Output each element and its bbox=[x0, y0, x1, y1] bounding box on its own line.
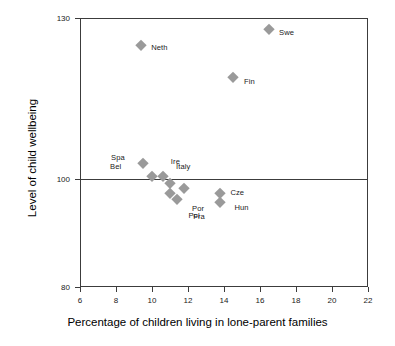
data-point-label: Cze bbox=[230, 189, 244, 198]
x-axis-tick-label: 18 bbox=[292, 296, 301, 305]
x-axis-tick bbox=[224, 287, 225, 292]
x-axis-title: Percentage of children living in lone-pa… bbox=[0, 316, 395, 328]
y-axis-tick bbox=[75, 179, 80, 180]
x-axis-tick bbox=[80, 287, 81, 292]
x-axis-tick bbox=[260, 287, 261, 292]
x-axis-tick bbox=[368, 287, 369, 292]
data-point-label: Swe bbox=[279, 29, 294, 38]
x-axis-tick-label: 16 bbox=[256, 296, 265, 305]
x-axis-tick-label: 22 bbox=[364, 296, 373, 305]
y-axis-tick-label: 100 bbox=[57, 175, 70, 184]
x-axis-tick bbox=[116, 287, 117, 292]
data-point-label: Hun bbox=[234, 204, 248, 213]
x-axis-tick-label: 10 bbox=[148, 296, 157, 305]
x-axis-tick-label: 6 bbox=[78, 296, 82, 305]
reference-line-100 bbox=[80, 179, 368, 180]
y-axis-tick bbox=[75, 287, 80, 288]
x-axis-tick bbox=[188, 287, 189, 292]
x-axis-tick-label: 14 bbox=[220, 296, 229, 305]
x-axis-tick-label: 8 bbox=[114, 296, 118, 305]
x-axis-tick bbox=[152, 287, 153, 292]
x-axis-tick-label: 20 bbox=[328, 296, 337, 305]
data-point-label: Italy bbox=[176, 163, 190, 172]
data-point-label: Neth bbox=[151, 44, 167, 53]
data-point-label: Bel bbox=[110, 163, 121, 172]
data-point-label: Pol bbox=[188, 212, 199, 221]
x-axis-tick-label: 12 bbox=[184, 296, 193, 305]
scatter-chart: NethSweFinSpaBelIreItalyPorFraPolCzeHun … bbox=[0, 0, 395, 346]
y-axis-title: Level of child wellbeing bbox=[26, 43, 38, 273]
y-axis-tick bbox=[75, 18, 80, 19]
y-axis-tick-label: 130 bbox=[57, 14, 70, 23]
x-axis-tick bbox=[296, 287, 297, 292]
x-axis-tick bbox=[332, 287, 333, 292]
y-axis-tick-label: 80 bbox=[61, 283, 70, 292]
data-point-label: Fin bbox=[244, 78, 255, 87]
